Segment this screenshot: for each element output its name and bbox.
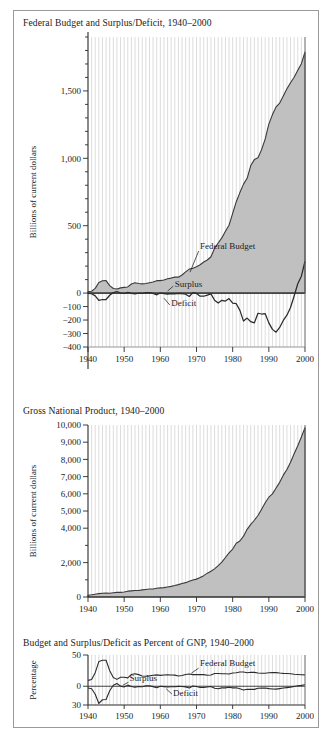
- figure-page: Federal Budget and Surplus/Deficit, 1940…: [0, 0, 333, 738]
- annotation-federal-budget: Federal Budget: [200, 241, 256, 251]
- y-axis-title: Billions of current dollars: [28, 145, 38, 238]
- chart-plot-percent-of-gnp: 500301940195019601970198019902000Percent…: [14, 631, 318, 727]
- y-tick-label: 0: [77, 288, 82, 298]
- annotation-federal-budget: Federal Budget: [200, 658, 256, 668]
- x-tick-label: 1960: [151, 354, 170, 364]
- y-tick-label: 0: [77, 681, 82, 691]
- x-tick-label: 2000: [296, 711, 315, 721]
- y-tick-label: 8,000: [61, 455, 82, 465]
- figure-frame: Federal Budget and Surplus/Deficit, 1940…: [13, 10, 319, 728]
- x-tick-label: 1960: [151, 604, 170, 614]
- y-tick-label: −400: [62, 342, 81, 352]
- chart-panel-gross-national-product: Gross National Product, 1940–2000 02,000…: [14, 399, 318, 631]
- x-tick-label: 1950: [115, 711, 134, 721]
- y-axis-title: Billions of current dollars: [28, 464, 38, 557]
- x-tick-label: 1990: [260, 354, 279, 364]
- x-tick-label: 1960: [151, 711, 170, 721]
- chart-panel-federal-budget: Federal Budget and Surplus/Deficit, 1940…: [14, 11, 318, 399]
- x-tick-label: 1980: [224, 354, 243, 364]
- x-tick-label: 1940: [79, 354, 98, 364]
- x-tick-label: 1990: [260, 604, 279, 614]
- annotation-deficit: Deficit: [173, 688, 198, 698]
- annotation-surplus: Surplus: [130, 673, 158, 683]
- chart-plot-federal-budget: −400−300−200−10005001,0001,5001940195019…: [14, 11, 318, 399]
- y-tick-label: −100: [62, 302, 81, 312]
- y-tick-label: 1,000: [61, 154, 82, 164]
- chart-plot-gross-national-product: 02,0004,0005,0006,0007,0008,0009,00010,0…: [14, 399, 318, 631]
- y-tick-label: 7,000: [61, 472, 82, 482]
- y-tick-label: 30: [72, 700, 82, 710]
- x-tick-label: 1970: [188, 604, 207, 614]
- x-tick-label: 1980: [224, 711, 243, 721]
- annotation-surplus: Surplus: [175, 279, 203, 289]
- x-tick-label: 1980: [224, 604, 243, 614]
- y-tick-label: 4,000: [61, 523, 82, 533]
- y-tick-label: 50: [72, 650, 82, 660]
- x-tick-label: 2000: [296, 604, 315, 614]
- y-tick-label: −300: [62, 329, 81, 339]
- y-tick-label: 500: [68, 221, 82, 231]
- y-tick-label: 0: [77, 592, 82, 602]
- x-tick-label: 1940: [79, 604, 98, 614]
- x-tick-label: 1970: [188, 711, 207, 721]
- x-tick-label: 1990: [260, 711, 279, 721]
- chart-panel-percent-of-gnp: Budget and Surplus/Deficit as Percent of…: [14, 631, 318, 727]
- x-tick-label: 1970: [188, 354, 207, 364]
- annotation-deficit: Deficit: [171, 298, 196, 308]
- x-tick-label: 1950: [115, 354, 134, 364]
- x-tick-label: 1940: [79, 711, 98, 721]
- y-tick-label: 5,000: [61, 506, 82, 516]
- x-tick-label: 2000: [296, 354, 315, 364]
- y-tick-label: 2,000: [61, 558, 82, 568]
- y-tick-label: 6,000: [61, 489, 82, 499]
- y-tick-label: 1,500: [61, 86, 82, 96]
- y-tick-label: 9,000: [61, 437, 82, 447]
- y-axis-title: Percentage: [28, 660, 38, 699]
- x-tick-label: 1950: [115, 604, 134, 614]
- y-tick-label: −200: [62, 315, 81, 325]
- y-tick-label: 10,000: [56, 420, 81, 430]
